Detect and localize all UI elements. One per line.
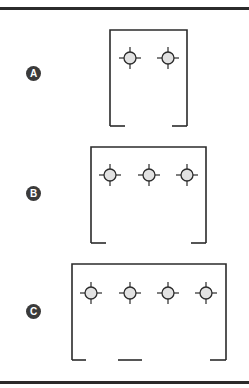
fixture-circle-icon [162,52,174,64]
fixture-circle-icon [181,169,193,181]
fixture-circle-icon [104,169,116,181]
panel-c-outline [72,264,226,360]
fixture-circle-icon [200,287,212,299]
panel-b-outline [91,147,206,243]
fixture-circle-icon [124,52,136,64]
fixture-circle-icon [143,169,155,181]
fixture-circle-icon [85,287,97,299]
fixture-circle-icon [162,287,174,299]
layout-diagram [0,0,249,388]
fixture-circle-icon [124,287,136,299]
panel-a-outline [110,30,187,126]
